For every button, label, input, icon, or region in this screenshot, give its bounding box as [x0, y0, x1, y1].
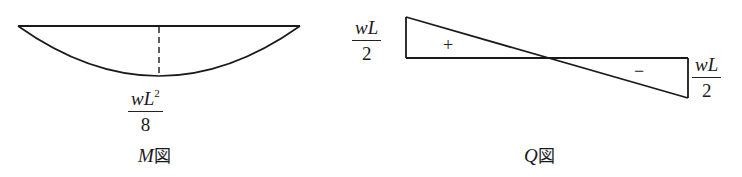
shear-right-label: wL 2	[692, 55, 721, 101]
moment-peak-denominator: 8	[141, 112, 151, 135]
shear-caption-var: Q	[524, 145, 538, 166]
moment-peak-numerator-text: wL	[131, 88, 154, 109]
moment-caption-suffix: 図	[154, 146, 171, 166]
shear-right-denominator: 2	[702, 78, 712, 101]
moment-peak-numerator: wL2	[128, 88, 163, 112]
shear-left-denominator: 2	[362, 41, 372, 64]
shear-right-numerator: wL	[692, 55, 721, 78]
shear-negative-sign: −	[634, 61, 644, 82]
moment-caption-var: M	[138, 145, 154, 166]
shear-caption: Q図	[524, 146, 555, 165]
shear-positive-sign: +	[443, 35, 453, 56]
diagram-canvas: wL2 8 M図 wL 2 wL 2 + − Q図	[0, 0, 742, 177]
shear-left-numerator: wL	[352, 18, 381, 41]
moment-caption: M図	[138, 146, 171, 165]
shear-left-label: wL 2	[352, 18, 381, 64]
moment-peak-exponent: 2	[154, 87, 160, 99]
shear-diagram-shape	[406, 17, 688, 98]
moment-diagram-shape	[18, 26, 300, 76]
moment-peak-label: wL2 8	[128, 88, 163, 135]
shear-caption-suffix: 図	[538, 146, 555, 166]
